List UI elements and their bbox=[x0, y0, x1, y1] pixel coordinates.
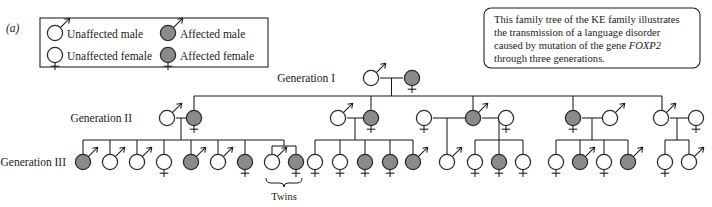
female-unaffected-symbol bbox=[657, 154, 672, 177]
caption-line-2: the transmission of a language disorder bbox=[494, 27, 661, 38]
female-affected-symbol bbox=[237, 154, 252, 177]
female-affected-symbol bbox=[565, 110, 580, 133]
female-affected-symbol bbox=[382, 154, 397, 177]
caption-line-3-text: caused by mutation of the gene bbox=[494, 40, 629, 51]
generation-1-label: Generation I bbox=[277, 72, 335, 84]
legend: Unaffected male Affected male Unaffected… bbox=[40, 18, 268, 70]
legend-label-affected-male: Affected male bbox=[180, 28, 245, 40]
pedigree-canvas: (a) Unaffected male Affected male Unaffe… bbox=[0, 0, 712, 207]
male-affected-symbol bbox=[183, 147, 205, 169]
female-affected-symbol bbox=[288, 154, 303, 177]
generation-3-label: Generation III bbox=[1, 156, 67, 168]
caption-line-1: This family tree of the KE family illust… bbox=[494, 14, 680, 25]
female-unaffected-symbol bbox=[515, 154, 530, 177]
female-affected-symbol bbox=[357, 154, 372, 177]
female-unaffected-symbol bbox=[156, 154, 171, 177]
generation-2-label: Generation II bbox=[70, 112, 132, 124]
female-unaffected-symbol bbox=[416, 110, 431, 133]
female-unaffected-symbol bbox=[332, 154, 347, 177]
male-affected-symbol bbox=[405, 147, 427, 169]
male-affected-symbol bbox=[75, 147, 97, 169]
female-unaffected-symbol bbox=[688, 110, 703, 133]
legend-label-unaffected-male: Unaffected male bbox=[67, 28, 143, 40]
female-affected-symbol bbox=[363, 110, 378, 133]
female-unaffected-symbol bbox=[307, 154, 322, 177]
male-unaffected-symbol bbox=[264, 147, 286, 169]
female-affected-symbol bbox=[404, 70, 419, 93]
generation-2-symbols bbox=[159, 103, 703, 133]
female-unaffected-symbol bbox=[548, 154, 563, 177]
twins-brace bbox=[266, 178, 302, 187]
female-affected-symbol bbox=[186, 110, 201, 133]
legend-symbols bbox=[47, 18, 182, 70]
caption-line-4: through three generations. bbox=[494, 53, 605, 64]
legend-label-unaffected-female: Unaffected female bbox=[67, 50, 152, 62]
male-unaffected-symbol bbox=[653, 103, 675, 125]
male-unaffected-symbol bbox=[439, 147, 461, 169]
male-unaffected-symbol bbox=[210, 147, 232, 169]
male-unaffected-symbol bbox=[363, 63, 385, 85]
male-unaffected-symbol bbox=[681, 147, 703, 169]
female-unaffected-symbol bbox=[596, 154, 611, 177]
female-affected-symbol bbox=[491, 154, 506, 177]
male-affected-symbol bbox=[572, 147, 594, 169]
twins-label: Twins bbox=[271, 191, 297, 202]
caption-gene-name: FOXP2 bbox=[628, 40, 662, 51]
panel-label: (a) bbox=[6, 22, 20, 35]
caption-line-3: caused by mutation of the gene FOXP2 bbox=[494, 40, 662, 51]
caption-box: This family tree of the KE family illust… bbox=[484, 8, 700, 68]
twins-annotation: Twins bbox=[266, 178, 302, 202]
female-unaffected-symbol bbox=[467, 154, 482, 177]
male-unaffected-symbol bbox=[129, 147, 151, 169]
male-unaffected-symbol bbox=[159, 103, 181, 125]
male-unaffected-symbol bbox=[102, 147, 124, 169]
male-unaffected-symbol bbox=[602, 103, 624, 125]
male-affected-symbol bbox=[465, 103, 487, 125]
legend-label-affected-female: Affected female bbox=[180, 50, 254, 62]
male-unaffected-symbol bbox=[330, 103, 352, 125]
female-unaffected-symbol bbox=[498, 110, 513, 133]
pedigree-figure: (a) Unaffected male Affected male Unaffe… bbox=[0, 0, 712, 207]
male-affected-symbol bbox=[620, 147, 642, 169]
